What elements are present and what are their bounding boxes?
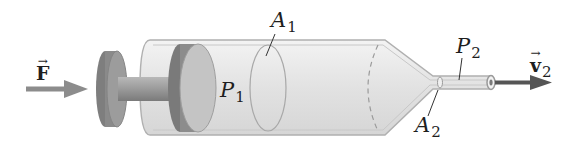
area-2-cross-section [438,77,443,88]
velocity-2-label: →v2 [530,56,552,75]
syringe-diagram: →F A1 P1 P2 A2 →v2 [0,0,577,142]
pressure-2-label: P2 [456,36,481,57]
force-label: →F [36,64,50,83]
area-2-label: A2 [415,115,441,136]
pressure-1-label: P1 [220,80,245,101]
area-1-label: A1 [271,10,297,31]
